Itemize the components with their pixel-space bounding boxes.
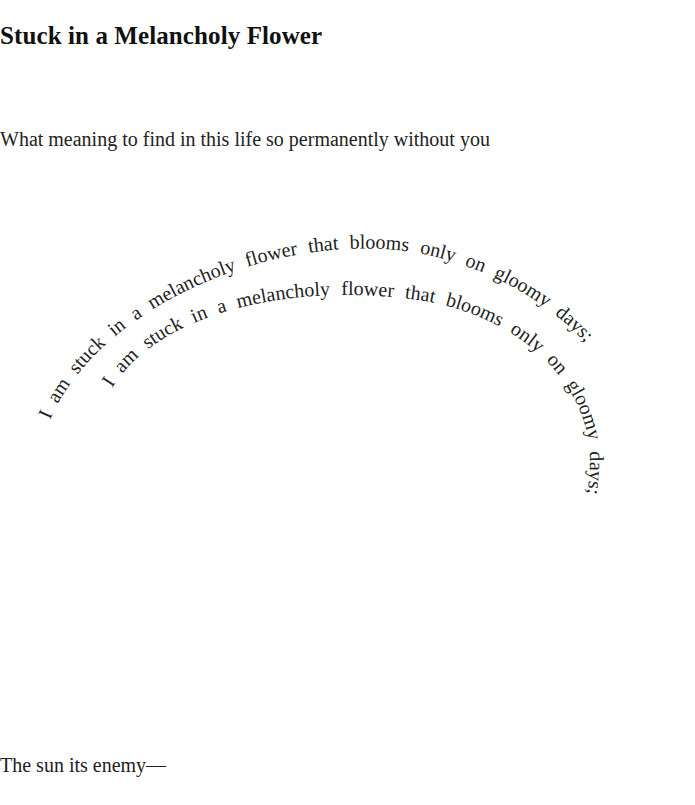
spiral-text-figure: I am stuck in a melancholy flower that b… <box>0 0 695 805</box>
spiral-inner-text: I am stuck in a melancholy flower that b… <box>97 277 608 496</box>
spiral-inner-textpath: I am stuck in a melancholy flower that b… <box>97 277 608 496</box>
closing-line: The sun its enemy— <box>0 754 166 777</box>
